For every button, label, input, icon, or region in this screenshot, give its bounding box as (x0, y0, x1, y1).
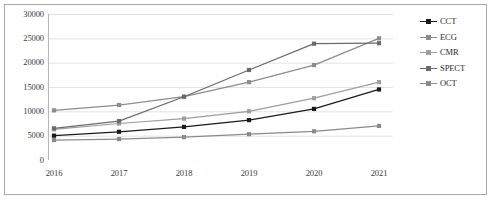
data-point (117, 103, 121, 107)
plot-svg (48, 14, 393, 160)
legend-item-cmr[interactable]: CMR (420, 45, 486, 61)
data-point (117, 137, 121, 141)
y-axis-tick: 10000 (23, 107, 44, 116)
data-point (52, 134, 56, 138)
x-axis-tick: 2019 (241, 168, 258, 178)
legend-label: ECG (440, 33, 457, 42)
data-point (182, 135, 186, 139)
data-point (312, 63, 316, 67)
data-point (377, 124, 381, 128)
y-axis-tick-labels: 050001000015000200002500030000 (0, 0, 44, 175)
data-point (117, 119, 121, 123)
data-point (247, 118, 251, 122)
legend-marker-icon (420, 17, 437, 26)
plot-area (48, 14, 393, 160)
data-point (312, 129, 316, 133)
data-point (117, 130, 121, 134)
legend-marker-icon (420, 64, 437, 73)
x-axis-tick: 2017 (111, 168, 128, 178)
legend-label: OCT (440, 79, 457, 88)
x-axis-tick: 2018 (176, 168, 193, 178)
legend-marker-icon (420, 48, 437, 57)
y-axis-tick: 15000 (23, 83, 44, 92)
y-axis-tick: 5000 (27, 131, 44, 140)
data-point (182, 117, 186, 121)
data-point (377, 87, 381, 91)
series-line (54, 89, 379, 135)
line-chart: 050001000015000200002500030000 201620172… (0, 0, 493, 201)
data-point (312, 96, 316, 100)
data-point (312, 42, 316, 46)
y-axis-tick: 20000 (23, 58, 44, 67)
data-point (52, 138, 56, 142)
data-point (377, 41, 381, 45)
data-point (377, 80, 381, 84)
legend-marker-icon (420, 33, 437, 42)
y-axis-tick: 30000 (23, 10, 44, 19)
legend-label: SPECT (440, 64, 465, 73)
data-point (182, 125, 186, 129)
legend-marker-icon (420, 79, 437, 88)
legend-label: CCT (440, 17, 456, 26)
data-point (247, 109, 251, 113)
legend-item-oct[interactable]: OCT (420, 76, 486, 92)
y-axis-tick: 0 (40, 156, 44, 165)
data-point (247, 132, 251, 136)
legend-item-cct[interactable]: CCT (420, 14, 486, 30)
data-point (312, 107, 316, 111)
data-point (247, 80, 251, 84)
x-axis-tick: 2016 (46, 168, 63, 178)
data-point (247, 68, 251, 72)
x-axis-tick: 2021 (371, 168, 388, 178)
data-point (182, 95, 186, 99)
data-point (52, 108, 56, 112)
series-ecg (52, 36, 381, 112)
x-axis-tick-labels: 201620172018201920202021 (48, 166, 393, 182)
chart-legend: CCTECGCMRSPECTOCT (420, 14, 486, 92)
data-point (377, 36, 381, 40)
x-axis-tick: 2020 (306, 168, 323, 178)
legend-item-spect[interactable]: SPECT (420, 61, 486, 77)
series-line (54, 38, 379, 110)
legend-label: CMR (440, 48, 459, 57)
data-point (52, 126, 56, 130)
series-spect (52, 41, 381, 130)
legend-item-ecg[interactable]: ECG (420, 30, 486, 46)
y-axis-tick: 25000 (23, 34, 44, 43)
